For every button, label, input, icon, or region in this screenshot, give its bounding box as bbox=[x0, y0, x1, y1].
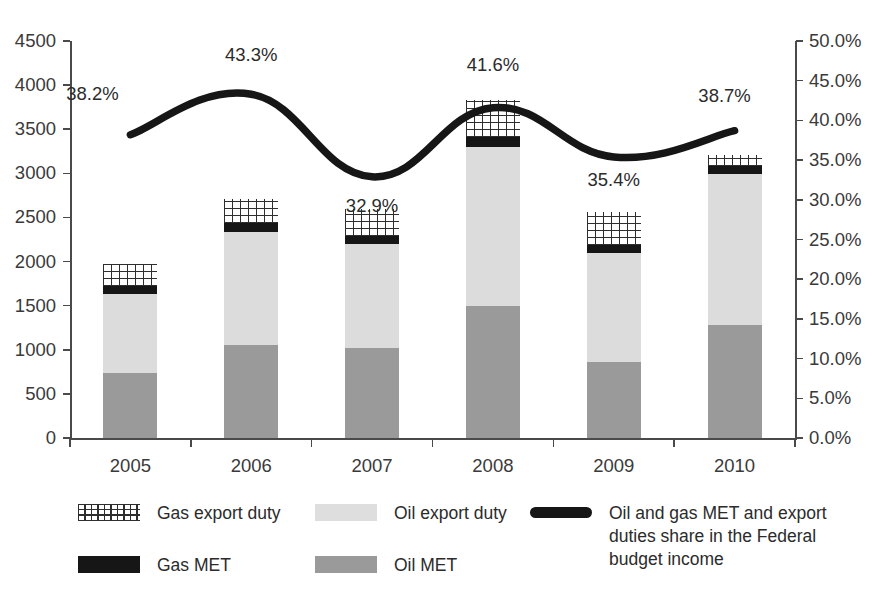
line-data-label-2006: 43.3% bbox=[206, 46, 296, 65]
y-axis-left-tick bbox=[63, 393, 70, 395]
x-axis-label-2010: 2010 bbox=[675, 457, 795, 476]
legend-label: Oil MET bbox=[394, 554, 457, 577]
y-axis-left-tick bbox=[63, 173, 70, 175]
x-axis-tick bbox=[432, 439, 434, 447]
bar-segment-oil-export-duty bbox=[345, 244, 399, 348]
x-axis-tick bbox=[190, 439, 192, 447]
bar-segment-gas-export-duty bbox=[466, 100, 520, 137]
y-axis-right-label: 35.0% bbox=[809, 151, 861, 170]
bar-segment-oil-export-duty bbox=[466, 147, 520, 306]
bar-segment-gas-export-duty bbox=[587, 212, 641, 246]
y-axis-right-tick bbox=[796, 398, 803, 400]
x-axis-tick bbox=[553, 439, 555, 447]
bar-segment-oil-met bbox=[345, 348, 399, 438]
line-data-label-2009: 35.4% bbox=[569, 171, 659, 190]
y-axis-left-label: 2500 bbox=[0, 208, 56, 227]
y-axis-left-tick bbox=[63, 128, 70, 130]
y-axis-right-tick bbox=[796, 239, 803, 241]
bar-segment-oil-export-duty bbox=[708, 174, 762, 325]
y-axis-left-label: 3500 bbox=[0, 120, 56, 139]
y-axis-right-label: 15.0% bbox=[809, 310, 861, 329]
y-axis-left-label: 500 bbox=[0, 385, 56, 404]
y-axis-right-tick bbox=[796, 120, 803, 122]
bar-segment-gas-met bbox=[345, 236, 399, 244]
y-axis-right-tick bbox=[796, 437, 803, 439]
x-axis-tick bbox=[794, 439, 796, 447]
x-axis-label-2005: 2005 bbox=[70, 457, 190, 476]
chart-figure: 050010001500200025003000350040004500 0.0… bbox=[0, 0, 882, 609]
y-axis-right-label: 10.0% bbox=[809, 350, 861, 369]
y-axis-right-label: 30.0% bbox=[809, 191, 861, 210]
bar-segment-oil-export-duty bbox=[103, 294, 157, 373]
plot-area: 050010001500200025003000350040004500 0.0… bbox=[0, 0, 882, 480]
legend-label: Gas MET bbox=[157, 554, 231, 577]
share-line-swatch-icon bbox=[530, 507, 592, 518]
bar-segment-oil-met bbox=[587, 362, 641, 438]
line-data-label-2007: 32.9% bbox=[327, 197, 417, 216]
y-axis-left-label: 3000 bbox=[0, 164, 56, 183]
legend-item-gas-met[interactable]: Gas MET bbox=[78, 554, 231, 577]
gas-export-duty-swatch-icon bbox=[78, 504, 140, 521]
y-axis-left-label: 4500 bbox=[0, 32, 56, 51]
y-axis-left-tick bbox=[63, 349, 70, 351]
y-axis-right-label: 40.0% bbox=[809, 111, 861, 130]
y-axis-left-tick bbox=[63, 217, 70, 219]
bar-segment-oil-met bbox=[466, 306, 520, 438]
y-axis-right-label: 5.0% bbox=[809, 389, 851, 408]
oil-met-swatch-icon bbox=[315, 556, 377, 573]
bar-segment-oil-export-duty bbox=[224, 232, 278, 345]
y-axis-right-label: 0.0% bbox=[809, 429, 851, 448]
bar-segment-oil-met bbox=[708, 325, 762, 438]
bar-segment-gas-met bbox=[587, 245, 641, 253]
y-axis-right-label: 50.0% bbox=[809, 32, 861, 51]
legend-item-oil-met[interactable]: Oil MET bbox=[315, 554, 457, 577]
bar-segment-gas-export-duty bbox=[224, 199, 278, 223]
y-axis-right-line bbox=[795, 41, 797, 440]
line-data-label-2010: 38.7% bbox=[680, 87, 770, 106]
bar-segment-gas-met bbox=[466, 137, 520, 147]
y-axis-right-label: 25.0% bbox=[809, 231, 861, 250]
x-axis-tick bbox=[69, 439, 71, 447]
y-axis-right-label: 20.0% bbox=[809, 270, 861, 289]
gas-met-swatch-icon bbox=[78, 556, 140, 573]
legend-item-gas-export-duty[interactable]: Gas export duty bbox=[78, 502, 281, 525]
x-axis-tick bbox=[311, 439, 313, 447]
y-axis-right-tick bbox=[796, 80, 803, 82]
legend-item-share-line[interactable]: Oil and gas MET and export duties share … bbox=[530, 502, 859, 571]
y-axis-left-tick bbox=[63, 261, 70, 263]
y-axis-right-tick bbox=[796, 40, 803, 42]
legend-item-oil-export-duty[interactable]: Oil export duty bbox=[315, 502, 507, 525]
bar-2007[interactable] bbox=[345, 41, 399, 438]
bar-segment-gas-met bbox=[708, 166, 762, 175]
line-data-label-2005: 38.2% bbox=[47, 85, 137, 104]
x-axis-label-2007: 2007 bbox=[312, 457, 432, 476]
bar-segment-gas-met bbox=[103, 286, 157, 294]
line-data-label-2008: 41.6% bbox=[448, 56, 538, 75]
y-axis-left-tick bbox=[63, 40, 70, 42]
y-axis-right-tick bbox=[796, 358, 803, 360]
y-axis-right-tick bbox=[796, 318, 803, 320]
y-axis-right-label: 45.0% bbox=[809, 72, 861, 91]
legend-label: Oil export duty bbox=[394, 502, 507, 525]
x-axis-label-2009: 2009 bbox=[554, 457, 674, 476]
y-axis-left-label: 1500 bbox=[0, 297, 56, 316]
y-axis-left-tick bbox=[63, 305, 70, 307]
bar-2008[interactable] bbox=[466, 41, 520, 438]
oil-export-duty-swatch-icon bbox=[315, 504, 377, 521]
bar-segment-oil-export-duty bbox=[587, 253, 641, 362]
bar-2006[interactable] bbox=[224, 41, 278, 438]
bar-segment-gas-export-duty bbox=[103, 264, 157, 285]
y-axis-right-tick bbox=[796, 159, 803, 161]
y-axis-left-label: 2000 bbox=[0, 253, 56, 272]
bar-segment-gas-met bbox=[224, 223, 278, 231]
y-axis-left-label: 0 bbox=[0, 429, 56, 448]
chart-legend: Gas export duty Oil export duty Oil and … bbox=[0, 492, 882, 609]
bar-segment-gas-export-duty bbox=[708, 155, 762, 166]
x-axis-label-2008: 2008 bbox=[433, 457, 553, 476]
y-axis-right-tick bbox=[796, 278, 803, 280]
x-axis-tick bbox=[673, 439, 675, 447]
legend-label: Oil and gas MET and export duties share … bbox=[609, 502, 859, 571]
bar-segment-oil-met bbox=[224, 345, 278, 438]
y-axis-left-label: 1000 bbox=[0, 341, 56, 360]
bar-2009[interactable] bbox=[587, 41, 641, 438]
